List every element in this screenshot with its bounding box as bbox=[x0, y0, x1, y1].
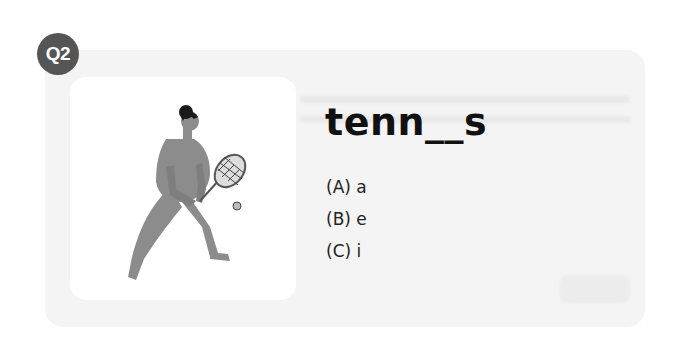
option-c[interactable]: (C) i bbox=[326, 241, 361, 261]
tennis-player-illustration bbox=[70, 77, 296, 300]
faded-button-shadow bbox=[560, 275, 630, 303]
option-a[interactable]: (A) a bbox=[326, 177, 367, 197]
question-word: tenn__s bbox=[325, 100, 487, 144]
option-b[interactable]: (B) e bbox=[326, 209, 367, 229]
question-number-badge: Q2 bbox=[37, 33, 79, 75]
illustration-box bbox=[70, 77, 296, 300]
